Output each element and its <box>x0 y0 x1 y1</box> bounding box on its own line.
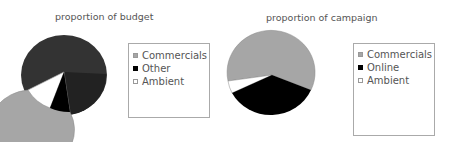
legend-campaign: Commercials Online Ambient <box>353 43 435 136</box>
swatch-black-icon <box>133 66 138 71</box>
legend-item-other: Other <box>133 62 209 75</box>
legend-item-commercials: Commercials <box>358 48 434 61</box>
legend-item-ambient: Ambient <box>133 75 209 88</box>
legend-budget: Commercials Other Ambient <box>128 43 210 118</box>
legend-item-online: Online <box>358 61 434 74</box>
chart-title-budget: proportion of budget <box>55 11 153 22</box>
swatch-white-icon <box>133 79 138 84</box>
swatch-black-icon <box>358 65 363 70</box>
campaign-pie <box>227 30 315 115</box>
legend-item-ambient: Ambient <box>358 74 434 87</box>
legend-item-commercials: Commercials <box>133 49 209 62</box>
budget-pie <box>0 35 107 142</box>
swatch-gray-icon <box>133 53 138 58</box>
swatch-gray-icon <box>358 52 363 57</box>
chart-title-campaign: proportion of campaign <box>266 12 378 23</box>
swatch-white-icon <box>358 78 363 83</box>
